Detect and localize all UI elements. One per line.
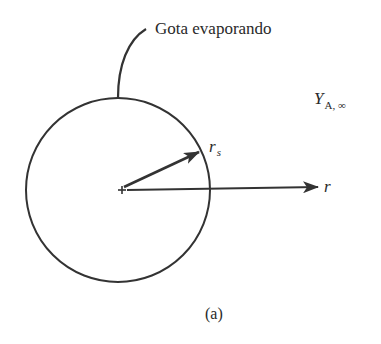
- radial-axis-label: r: [324, 178, 331, 195]
- ambient-subscript: A, ∞: [324, 99, 345, 111]
- figure-caption: (a): [205, 306, 223, 322]
- droplet-label: Gota evaporando: [155, 20, 272, 37]
- leader-line: [118, 29, 146, 98]
- radius-symbol: r: [209, 137, 216, 156]
- radius-arrow: [124, 152, 199, 187]
- diagram-canvas: Gota evaporando YA, ∞ rs r (a): [0, 0, 381, 344]
- droplet-figure: [0, 0, 381, 344]
- surface-radius-label: rs: [209, 138, 221, 158]
- radius-subscript: s: [217, 146, 221, 158]
- ambient-mass-fraction-label: YA, ∞: [314, 90, 346, 111]
- radial-axis-arrow: [127, 187, 318, 190]
- ambient-symbol: Y: [314, 89, 323, 108]
